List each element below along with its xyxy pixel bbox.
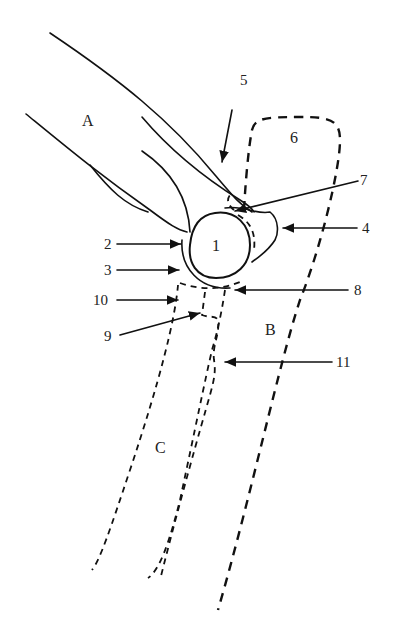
label-1: 1 <box>212 238 220 254</box>
leader-lines <box>117 110 358 362</box>
upper-arm-lower-line <box>26 114 187 232</box>
elbow-anatomy-diagram <box>0 0 394 632</box>
label-11: 11 <box>336 355 350 370</box>
label-4: 4 <box>362 221 370 236</box>
upper-arm-outer-line <box>50 33 252 212</box>
label-7: 7 <box>360 173 368 188</box>
label-2: 2 <box>104 237 112 252</box>
region-label-c: C <box>155 440 166 456</box>
label-10: 10 <box>93 293 108 308</box>
region-label-b: B <box>265 322 276 338</box>
label-6: 6 <box>290 130 298 146</box>
region-6-outline <box>218 117 340 610</box>
label-5: 5 <box>240 73 248 88</box>
label-9: 9 <box>104 329 112 344</box>
label-3: 3 <box>104 263 112 278</box>
label-8: 8 <box>354 283 362 298</box>
region-label-a: A <box>82 113 94 129</box>
